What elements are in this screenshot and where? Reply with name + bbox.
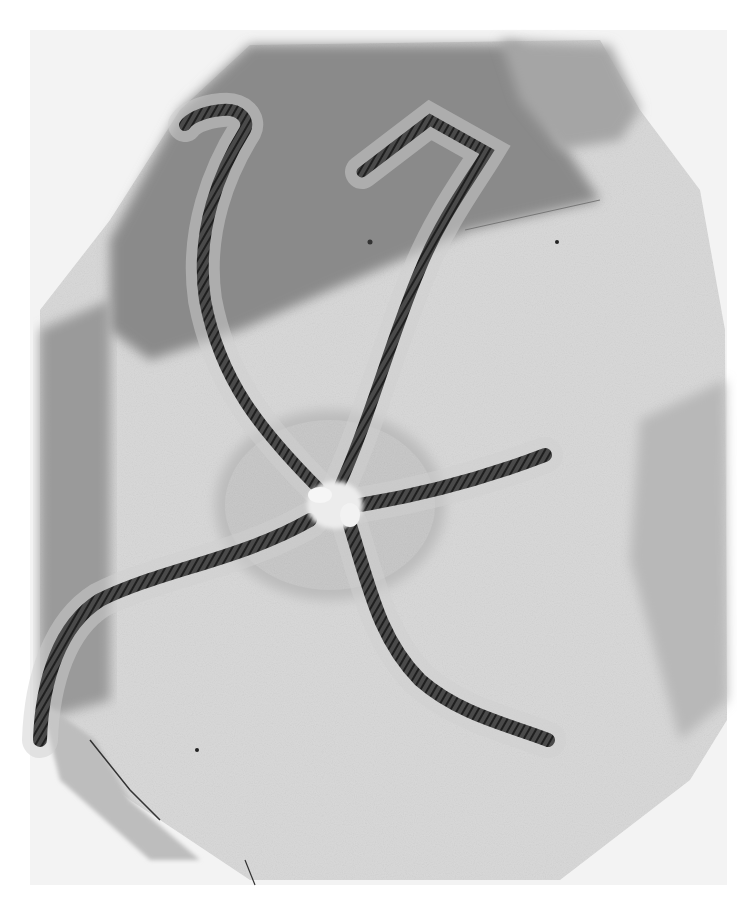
rock-speck — [195, 748, 199, 752]
rock-speck — [368, 240, 373, 245]
fossil-illustration — [0, 0, 756, 906]
rock-speck — [555, 240, 559, 244]
brittle-star-mouth — [307, 481, 363, 529]
fossil-photograph — [0, 0, 756, 906]
